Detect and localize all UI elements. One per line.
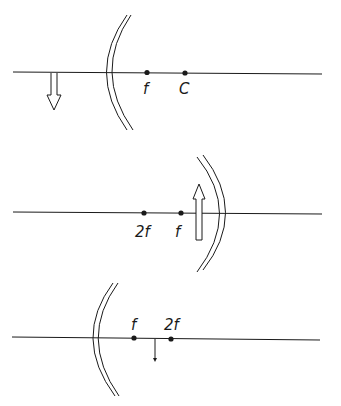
- label-c: C: [179, 80, 190, 98]
- diagram-1: f C: [13, 15, 322, 130]
- object-arrow-down: [47, 73, 61, 110]
- two-f-point-dot: [141, 210, 146, 215]
- two-f-point-dot: [168, 336, 173, 341]
- object-arrow-head: [153, 358, 157, 362]
- principal-axis: [13, 212, 322, 214]
- focal-point-dot: [178, 210, 183, 215]
- label-2f: 2f: [164, 316, 182, 334]
- mirror-inner-arc: [203, 155, 226, 270]
- principal-axis: [13, 72, 322, 74]
- center-point-dot: [182, 70, 187, 75]
- mirror-outer-arc: [93, 283, 115, 396]
- label-f: f: [175, 223, 183, 241]
- label-f: f: [131, 316, 139, 334]
- focal-point-dot: [144, 70, 149, 75]
- object-arrow-up: [193, 184, 205, 240]
- diagram-2: 2f f: [13, 155, 322, 272]
- focal-point-dot: [131, 335, 136, 340]
- principal-axis: [12, 337, 320, 340]
- label-f: f: [143, 80, 151, 98]
- mirror-inner-arc: [98, 283, 119, 396]
- label-2f: 2f: [135, 223, 153, 241]
- diagram-3: f 2f: [12, 283, 320, 396]
